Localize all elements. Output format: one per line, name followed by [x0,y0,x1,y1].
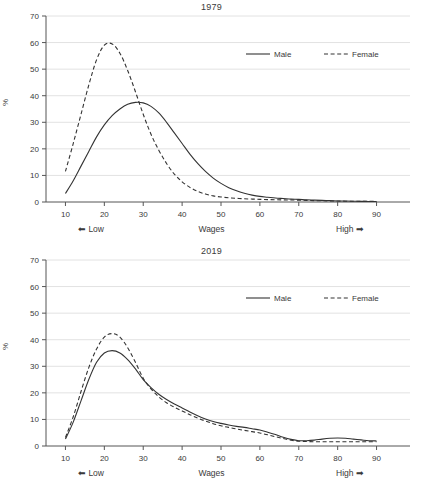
x-tick-label-40: 40 [178,454,187,463]
x-tick-label-20: 20 [100,454,109,463]
y-tick-label-40: 40 [30,336,39,345]
x-tick-label-30: 30 [139,454,148,463]
right-arrow-icon: ➡ [356,468,364,478]
x-tick-label-70: 70 [294,454,303,463]
x-tick-label-70: 70 [294,210,303,219]
y-tick-label-60: 60 [30,39,39,48]
plot-area-2019: 010203040506070102030405060708090MaleFem… [0,244,423,487]
y-tick-label-30: 30 [30,118,39,127]
x-axis-high-annotation-2019: High ➡ [336,468,364,478]
dual-line-chart-figure: 1979 % 010203040506070102030405060708090… [0,0,423,487]
series-line-male [65,351,376,441]
y-tick-label-40: 40 [30,92,39,101]
high-label-2019: High [336,468,353,478]
right-arrow-icon: ➡ [356,224,364,234]
y-tick-label-10: 10 [30,171,39,180]
x-tick-label-20: 20 [100,210,109,219]
x-tick-label-50: 50 [217,454,226,463]
high-label-1979: High [336,224,353,234]
x-tick-label-50: 50 [217,210,226,219]
x-tick-label-60: 60 [255,210,264,219]
y-tick-label-70: 70 [30,12,39,21]
x-tick-label-90: 90 [372,210,381,219]
y-tick-label-0: 0 [35,442,40,451]
x-tick-label-80: 80 [333,454,342,463]
y-tick-label-10: 10 [30,415,39,424]
x-tick-label-40: 40 [178,210,187,219]
x-tick-label-60: 60 [255,454,264,463]
x-tick-label-80: 80 [333,210,342,219]
y-tick-label-20: 20 [30,389,39,398]
legend-label-female: Female [352,50,379,59]
series-line-male [65,102,376,201]
y-tick-label-70: 70 [30,256,39,265]
y-tick-label-50: 50 [30,309,39,318]
x-tick-label-10: 10 [61,454,70,463]
y-tick-label-0: 0 [35,198,40,207]
legend-label-male: Male [274,50,292,59]
chart-panel-1979: 1979 % 010203040506070102030405060708090… [0,0,423,243]
y-tick-label-20: 20 [30,145,39,154]
legend-label-female: Female [352,294,379,303]
x-tick-label-90: 90 [372,454,381,463]
x-tick-label-10: 10 [61,210,70,219]
x-tick-label-30: 30 [139,210,148,219]
y-tick-label-50: 50 [30,65,39,74]
legend-label-male: Male [274,294,292,303]
series-line-female [65,334,376,442]
y-tick-label-60: 60 [30,283,39,292]
chart-panel-2019: 2019 % 010203040506070102030405060708090… [0,244,423,487]
x-axis-high-annotation-1979: High ➡ [336,224,364,234]
y-tick-label-30: 30 [30,362,39,371]
plot-area-1979: 010203040506070102030405060708090MaleFem… [0,0,423,243]
